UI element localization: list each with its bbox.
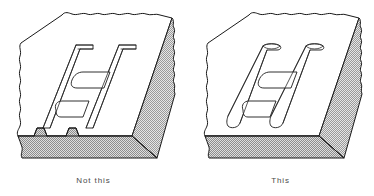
panel-this: This	[187, 0, 374, 196]
block-with-round-ended-h-groove-icon	[187, 0, 374, 196]
block-with-square-ended-h-groove-icon	[0, 0, 187, 196]
panel-not-this: Not this	[0, 0, 187, 196]
caption-this: This	[187, 176, 374, 185]
figure-root: Not this	[0, 0, 374, 196]
caption-not-this: Not this	[0, 176, 187, 185]
